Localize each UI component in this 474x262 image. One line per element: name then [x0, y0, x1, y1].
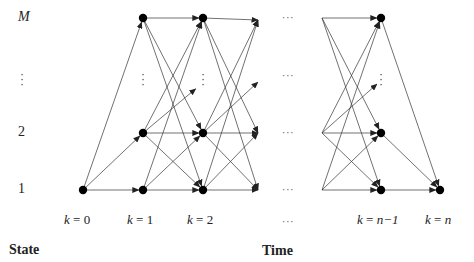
trellis-edge: [322, 18, 379, 129]
row-ellipsis-2: ···: [282, 127, 295, 138]
node-kn-s1: [436, 186, 444, 194]
trellis-edge: [143, 22, 202, 190]
trellis-edge: [83, 22, 142, 190]
node-kn1-sM: [377, 14, 385, 22]
time-label-kn: k = n: [425, 212, 451, 228]
trellis-edge: [322, 22, 379, 133]
node-k0-s1: [79, 186, 87, 194]
trellis-edge: [203, 82, 258, 133]
node-kn1-s1: [377, 186, 385, 194]
time-label-k0: k = 0: [64, 212, 90, 228]
row-ellipsis-1: ···: [282, 184, 295, 195]
trellis-edge: [143, 136, 200, 190]
trellis-edge: [322, 136, 378, 190]
state-axis-title: State: [9, 242, 39, 258]
time-axis-title: Time: [262, 243, 293, 259]
state-label-2: 2: [18, 124, 25, 140]
trellis-edge: [322, 133, 378, 187]
trellis-edge: [143, 89, 196, 133]
node-k2-sM: [199, 14, 207, 22]
time-label-kn1: k = n−1: [357, 212, 398, 228]
trellis-edge: [143, 22, 201, 133]
time-label-k2: k = 2: [187, 212, 213, 228]
trellis-edge: [203, 18, 258, 20]
trellis-diagram: M ··· 2 1 ··· ··· ··· ··· ··· ··· ··· k …: [0, 0, 474, 262]
node-k2-s2: [199, 129, 207, 137]
column-ellipsis-kn1: ···: [379, 72, 383, 87]
node-k2-s1: [199, 186, 207, 194]
column-ellipsis-k1: ···: [141, 72, 145, 87]
state-label-ellipsis: ···: [20, 72, 24, 87]
state-label-M: M: [18, 9, 30, 25]
column-ellipsis-k2: ···: [201, 72, 205, 87]
row-ellipsis-M: ···: [282, 12, 295, 23]
node-k1-sM: [139, 14, 147, 22]
trellis-edge: [322, 22, 380, 190]
trellis-edge: [381, 133, 437, 187]
time-label-k1: k = 1: [127, 212, 153, 228]
trellis-edge: [143, 18, 201, 129]
time-label-ellipsis: ···: [282, 216, 295, 227]
node-k1-s2: [139, 129, 147, 137]
row-ellipsis-dots: ···: [282, 70, 295, 81]
node-k1-s1: [139, 186, 147, 194]
trellis-edge: [143, 133, 200, 187]
node-kn1-s2: [377, 129, 385, 137]
trellis-edge: [83, 136, 140, 190]
state-label-1: 1: [18, 181, 25, 197]
